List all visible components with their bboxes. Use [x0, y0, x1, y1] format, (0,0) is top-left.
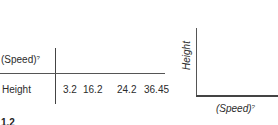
table-vertical-divider: [55, 48, 56, 104]
y-axis-label: Height: [181, 41, 193, 70]
figure-number-fragment: 1.2: [1, 117, 15, 125]
table-value: 36.45: [144, 84, 169, 96]
table-value: 24.2: [117, 84, 136, 96]
table-value: 3.2: [63, 84, 77, 96]
table-value: 16.2: [83, 84, 102, 96]
y-axis: [196, 28, 197, 97]
row-header-speed: (Speed)?: [1, 54, 40, 66]
row-header-height: Height: [2, 84, 31, 96]
x-axis-label: (Speed)?: [216, 103, 255, 115]
x-axis: [196, 95, 278, 97]
table-horizontal-divider: [0, 73, 165, 74]
